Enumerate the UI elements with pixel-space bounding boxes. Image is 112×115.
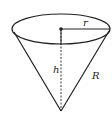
cone-right-side xyxy=(61,31,109,111)
cone-diagram: r h R xyxy=(0,0,112,115)
height-label: h xyxy=(53,64,59,75)
slant-label: R xyxy=(91,70,100,81)
center-point xyxy=(59,27,63,31)
radius-label: r xyxy=(83,17,89,28)
